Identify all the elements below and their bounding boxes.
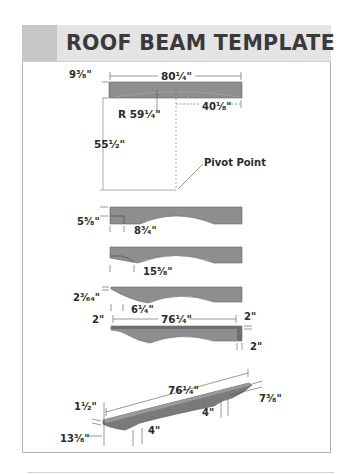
step5-left-trim-label: 2" — [92, 314, 104, 325]
step3-end-offset-label: 15⁵⁄₈" — [143, 266, 173, 277]
step1-half-length-label: 40¹⁄₈" — [202, 101, 232, 112]
step1-length-label: 80¹⁄₄" — [161, 70, 192, 82]
step1-radius-label: R 59¹⁄₄" — [118, 108, 161, 120]
step1-blank-beam — [100, 72, 242, 190]
step4-beam — [102, 287, 242, 311]
step1-thickness-label: 9³⁄₈" — [69, 69, 92, 80]
step1-pivot-offset-label: 55¹⁄₂" — [94, 138, 125, 150]
step5-top-trim-label: 2" — [244, 311, 256, 322]
step6-left-foot-label: 4" — [148, 425, 160, 436]
step2-beam — [100, 207, 242, 232]
step6-foot-offset-label: 13³⁄₈" — [60, 433, 90, 444]
step6-finished-beam — [88, 369, 262, 446]
step6-length-label: 76¹⁄₄" — [168, 384, 199, 396]
step2-end-offset-label: 8³⁄₄" — [134, 225, 157, 236]
step6-depth-label: 7³⁄₈" — [259, 393, 282, 404]
step3-beam — [110, 247, 242, 272]
step6-end-thickness-label: 1¹⁄₂" — [74, 401, 97, 412]
step6-right-foot-label: 4" — [202, 407, 214, 418]
step5-right-trim-label: 2" — [250, 341, 262, 352]
step4-end-offset-label: 6¹⁄₄" — [131, 304, 154, 315]
step2-end-height-label: 5⁵⁄₈" — [77, 216, 100, 227]
pivot-point-label: Pivot Point — [204, 157, 266, 168]
step4-end-height-label: 2³⁄₆₄" — [73, 292, 100, 303]
beam-drawing: 9³⁄₈" 80¹⁄₄" R 59¹⁄₄" 40¹⁄₈" 55¹⁄₂" Pivo… — [0, 0, 348, 474]
step5-length-label: 76¹⁄₄" — [161, 313, 192, 325]
